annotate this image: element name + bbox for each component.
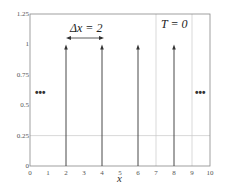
- ellipsis-right: •••: [195, 87, 206, 98]
- x-tick-label: 3: [82, 169, 86, 177]
- x-tick-label: 1: [46, 169, 50, 177]
- x-axis-label: x: [116, 172, 122, 184]
- y-tick-label: 1.25: [17, 10, 30, 18]
- x-tick-label: 10: [207, 169, 215, 177]
- y-tick-label: 1: [26, 40, 30, 48]
- delta-x-arrow: [66, 36, 104, 40]
- arrow-head-icon: [100, 44, 104, 49]
- plot-frame: [30, 14, 210, 166]
- tick-labels: 01234567891000.250.50.7511.25: [17, 10, 214, 177]
- x-tick-label: 9: [190, 169, 194, 177]
- x-tick-label: 6: [136, 169, 140, 177]
- arrow-head-icon: [64, 44, 68, 49]
- x-tick-label: 8: [172, 169, 176, 177]
- x-tick-label: 2: [64, 169, 68, 177]
- arrow-head-icon: [172, 44, 176, 49]
- x-tick-label: 7: [154, 169, 158, 177]
- y-tick-label: 0: [26, 162, 30, 170]
- chart: 01234567891000.250.50.7511.25 Δx = 2 T =…: [0, 0, 225, 189]
- x-tick-label: 4: [100, 169, 104, 177]
- y-tick-label: 0.25: [17, 132, 30, 140]
- arrow-head-icon: [136, 44, 140, 49]
- time-label: T = 0: [161, 17, 188, 31]
- impulse-arrows: [64, 44, 176, 166]
- axes: [30, 14, 210, 166]
- x-tick-label: 0: [28, 169, 32, 177]
- ellipsis-left: •••: [35, 87, 46, 98]
- y-tick-label: 0.75: [17, 71, 30, 79]
- grid-lines: [30, 14, 210, 166]
- delta-x-label: Δx = 2: [69, 21, 102, 35]
- y-tick-label: 0.5: [20, 101, 29, 109]
